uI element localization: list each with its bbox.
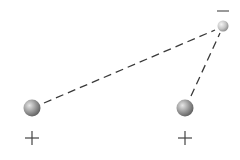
top-negative-charge [218, 21, 229, 32]
dashed-line-left-to-top [44, 30, 215, 103]
left-positive-charge [24, 100, 41, 117]
right-plus-sign [178, 131, 192, 145]
charge-diagram [0, 0, 240, 160]
dashed-line-right-to-top [191, 33, 220, 96]
left-plus-sign [25, 131, 39, 145]
right-positive-charge [177, 100, 194, 117]
